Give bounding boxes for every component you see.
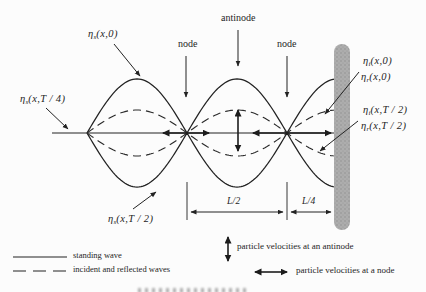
label-half-wavelength: L/2 [227, 197, 241, 207]
legend-node-velocity-label: particle velocities at a node [296, 266, 394, 275]
standing-T4-pointer-arrow [46, 108, 68, 129]
standing-wave-figure: ηs(x,0) ηs(x,T / 4) ηs(x,T / 2) node ant… [0, 0, 426, 292]
label-incident-t0: ηi(x,0) [363, 55, 392, 68]
label-reflected-T2: ηr(x,T / 2) [361, 120, 406, 133]
legend-standing-wave-label: standing wave [73, 251, 122, 260]
legend-antinode-velocity-label: particle velocities at an antinode [237, 242, 353, 251]
eta-args: (x,0) [369, 71, 391, 82]
standing-t0-pointer-arrow [114, 44, 140, 76]
eta-args: (x,0) [96, 28, 118, 39]
label-reflected-t0: ηr(x,0) [361, 71, 391, 84]
legend-incident-reflected-label: incident and reflected waves [73, 265, 170, 274]
label-incident-T2: ηi(x,T / 2) [363, 104, 408, 117]
eta-args: (x,T / 2) [369, 120, 406, 131]
label-standing-wave-T4: ηs(x,T / 4) [20, 93, 65, 106]
eta-args: (x,T / 2) [116, 213, 153, 224]
label-node-left: node [178, 39, 197, 50]
label-standing-wave-t0: ηs(x,0) [88, 28, 118, 41]
eta-args: (x,T / 4) [28, 93, 65, 104]
eta-args: (x,T / 2) [371, 104, 408, 115]
label-quarter-wavelength: L/4 [302, 197, 316, 207]
wave-diagram [0, 0, 426, 292]
eta-args: (x,0) [371, 55, 393, 66]
label-antinode: antinode [221, 13, 255, 24]
standing-T2-pointer-arrow [133, 192, 156, 209]
cropped-caption-remnant [138, 288, 250, 292]
label-standing-wave-T2: ηs(x,T / 2) [108, 213, 153, 226]
incident-reflected-top-curve [87, 110, 335, 133]
label-node-right: node [277, 39, 296, 50]
reflecting-wall [334, 44, 350, 230]
incident-reflected-bottom-curve [87, 133, 335, 156]
